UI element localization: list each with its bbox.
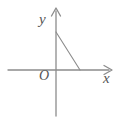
y-axis-label: y <box>39 12 46 27</box>
origin-label: O <box>39 69 49 83</box>
diagonal-segment <box>56 32 80 70</box>
coordinate-diagram: y x O <box>0 0 119 122</box>
x-axis-label: x <box>103 71 110 86</box>
coordinate-axes-svg <box>0 0 119 122</box>
